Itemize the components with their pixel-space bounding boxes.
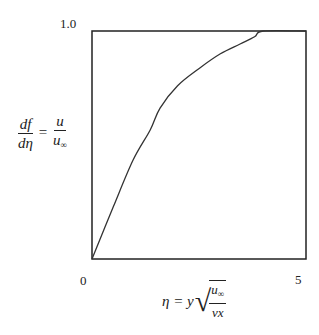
x-axis-label: η = y √ u∞νx	[162, 280, 226, 322]
y-tick-1-0: 1.0	[60, 16, 76, 32]
y-axis-label: dfdη = uu∞	[16, 113, 69, 154]
ylabel-numerator: df	[18, 116, 34, 134]
plot-frame	[92, 31, 306, 259]
xlabel-nux: νx	[210, 304, 226, 322]
ylabel-inf-sub: ∞	[60, 140, 66, 150]
xlabel-eta-eq: η = y	[162, 293, 194, 310]
ylabel-u: u	[54, 113, 66, 131]
ylabel-denominator: dη	[16, 134, 35, 152]
x-tick-5: 5	[295, 272, 302, 288]
chart-plot	[0, 0, 319, 335]
velocity-profile-curve	[92, 31, 306, 259]
xlabel-inf-sub: ∞	[218, 289, 224, 299]
x-tick-0: 0	[80, 273, 87, 289]
ylabel-equals: =	[39, 124, 47, 140]
